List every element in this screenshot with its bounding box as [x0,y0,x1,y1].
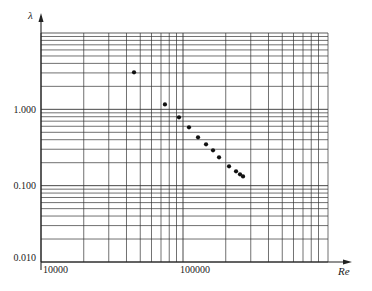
data-point [132,70,136,74]
x-tick-label-100000: 100000 [180,265,210,275]
y-axis-arrow-icon [39,13,44,22]
data-point [234,169,238,173]
y-axis-title: λ [28,10,33,20]
y-tick-label-1: 1.000 [0,105,36,115]
y-tick-label-0.1: 0.100 [0,181,36,191]
x-tick-label-10000: 10000 [43,265,68,275]
data-point [187,125,191,129]
data-point [241,174,245,178]
data-point [217,155,221,159]
data-point [227,164,231,168]
data-point [211,148,215,152]
log-log-chart [0,0,372,291]
data-point [163,102,167,106]
axes [39,13,353,270]
data-point [204,142,208,146]
x-axis-arrow-icon [343,260,352,265]
data-point [177,115,181,119]
y-tick-label-0.01: 0.010 [0,253,36,263]
grid-lines [41,33,328,262]
x-axis-title: Re [338,266,350,276]
data-point [196,135,200,139]
